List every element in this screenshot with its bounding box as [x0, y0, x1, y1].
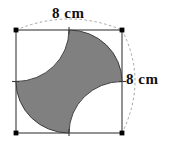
top-dimension-label: 8 cm: [52, 6, 84, 21]
corner-marker-top-left: [14, 28, 19, 33]
corner-marker-bottom-right: [120, 131, 125, 136]
corner-marker-top-right: [120, 28, 125, 33]
corner-marker-bottom-left: [14, 131, 19, 136]
right-dimension-label: 8 cm: [126, 72, 158, 87]
